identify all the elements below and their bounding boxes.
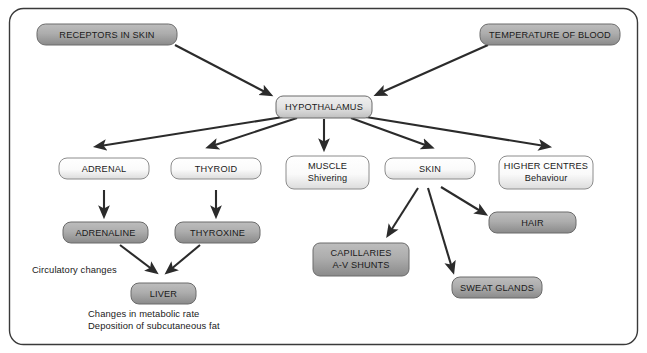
- node-label: TEMPERATURE OF BLOOD: [489, 30, 611, 40]
- node-liver[interactable]: LIVER: [131, 283, 196, 304]
- node-higher-centres[interactable]: HIGHER CENTRES Behaviour: [499, 156, 593, 189]
- node-label: HYPOTHALAMUS: [285, 102, 363, 112]
- node-label: CAPILLARIES: [331, 248, 392, 258]
- node-sublabel: Behaviour: [525, 173, 568, 183]
- node-label: RECEPTORS IN SKIN: [59, 30, 154, 40]
- node-muscle[interactable]: MUSCLE Shivering: [286, 156, 369, 189]
- node-label: HAIR: [521, 218, 544, 228]
- node-label: THYROID: [195, 164, 238, 174]
- flow-diagram: RECEPTORS IN SKIN TEMPERATURE OF BLOOD H…: [0, 0, 647, 353]
- node-receptors-in-skin[interactable]: RECEPTORS IN SKIN: [37, 24, 177, 45]
- node-adrenaline[interactable]: ADRENALINE: [63, 222, 148, 243]
- node-label: HIGHER CENTRES: [504, 161, 588, 171]
- diagram-canvas: RECEPTORS IN SKIN TEMPERATURE OF BLOOD H…: [0, 0, 647, 353]
- node-temperature-of-blood[interactable]: TEMPERATURE OF BLOOD: [480, 24, 620, 45]
- node-hair[interactable]: HAIR: [489, 212, 576, 233]
- node-adrenal[interactable]: ADRENAL: [59, 158, 149, 179]
- node-label: SKIN: [419, 164, 441, 174]
- node-thyroxine[interactable]: THYROXINE: [175, 222, 260, 243]
- node-skin[interactable]: SKIN: [385, 158, 475, 179]
- node-hypothalamus[interactable]: HYPOTHALAMUS: [276, 96, 372, 118]
- node-label: LIVER: [150, 289, 178, 299]
- annotation-circulatory-changes: Circulatory changes: [32, 264, 117, 275]
- node-label: THYROXINE: [190, 228, 245, 238]
- node-label: MUSCLE: [308, 161, 347, 171]
- node-sweat-glands[interactable]: SWEAT GLANDS: [452, 277, 542, 298]
- annotation-subcutaneous-fat: Deposition of subcutaneous fat: [88, 320, 220, 331]
- node-label: ADRENAL: [82, 164, 126, 174]
- node-thyroid[interactable]: THYROID: [171, 158, 261, 179]
- node-sublabel: A-V SHUNTS: [332, 260, 389, 270]
- node-capillaries[interactable]: CAPILLARIES A-V SHUNTS: [313, 243, 409, 276]
- node-label: SWEAT GLANDS: [460, 283, 534, 293]
- node-sublabel: Shivering: [308, 173, 348, 183]
- node-label: ADRENALINE: [75, 228, 135, 238]
- annotation-metabolic-rate: Changes in metabolic rate: [88, 308, 199, 319]
